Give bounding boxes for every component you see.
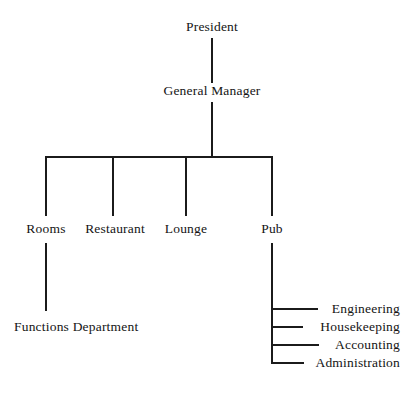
connector-bus-to-lounge bbox=[185, 156, 187, 216]
node-housekeeping: Housekeeping bbox=[320, 320, 400, 334]
connector-bus-to-rooms bbox=[45, 156, 47, 216]
node-engineering: Engineering bbox=[332, 302, 400, 316]
connector-pub-to-accounting bbox=[271, 344, 319, 346]
node-general-manager: General Manager bbox=[163, 84, 260, 98]
connector-bus-to-restaurant bbox=[112, 156, 114, 216]
connector-bus-horizontal bbox=[45, 156, 273, 158]
node-president: President bbox=[186, 20, 238, 34]
connector-pub-to-engineering bbox=[271, 308, 318, 310]
connector-pub-to-administration bbox=[271, 362, 304, 364]
node-restaurant: Restaurant bbox=[85, 222, 145, 236]
org-chart: President General Manager Rooms Restaura… bbox=[0, 0, 410, 399]
connector-rooms-to-functions-department bbox=[45, 243, 47, 311]
node-rooms: Rooms bbox=[26, 222, 65, 236]
connector-pub-to-housekeeping bbox=[271, 326, 303, 328]
node-administration: Administration bbox=[315, 356, 400, 370]
node-accounting: Accounting bbox=[335, 338, 400, 352]
node-pub: Pub bbox=[261, 222, 283, 236]
connector-bus-to-pub bbox=[271, 156, 273, 216]
connector-president-to-general-manager bbox=[211, 38, 213, 83]
connector-general-manager-to-bus bbox=[211, 102, 213, 157]
node-functions-department: Functions Department bbox=[14, 320, 138, 334]
node-lounge: Lounge bbox=[165, 222, 207, 236]
